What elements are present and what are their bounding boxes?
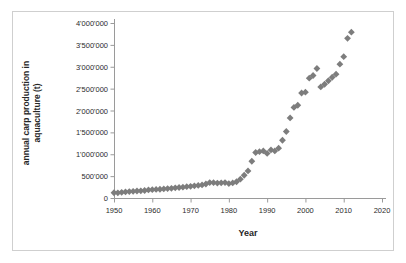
data-point <box>348 29 355 36</box>
data-point <box>344 35 351 42</box>
x-axis-ticks <box>115 199 383 203</box>
data-point <box>279 137 286 144</box>
data-point <box>245 167 252 174</box>
data-point <box>340 53 347 60</box>
plot-area <box>0 0 406 263</box>
data-point <box>248 158 255 165</box>
chart-figure: annual carp production in aquaculture (t… <box>0 0 406 263</box>
data-point <box>283 128 290 135</box>
data-point <box>314 65 321 72</box>
scatter-series <box>111 29 355 196</box>
data-point <box>336 61 343 68</box>
y-axis-ticks <box>111 24 115 199</box>
data-point <box>287 115 294 122</box>
